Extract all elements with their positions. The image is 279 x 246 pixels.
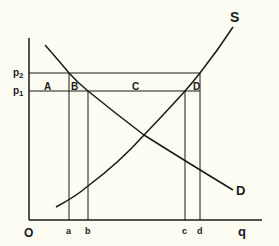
origin-label: O bbox=[24, 226, 33, 240]
price-label-p1: p1 bbox=[13, 85, 24, 98]
quantity-label-b: b bbox=[85, 226, 91, 236]
area-label-c: C bbox=[132, 81, 139, 92]
price-label-p2: p2 bbox=[13, 67, 24, 80]
supply-demand-diagram: S D p2 p1 A B C D O q a b c d bbox=[0, 0, 279, 246]
area-label-a: A bbox=[44, 81, 51, 92]
supply-curve bbox=[56, 27, 233, 207]
quantity-label-c: c bbox=[182, 226, 187, 236]
area-label-b: B bbox=[71, 81, 78, 92]
supply-label: S bbox=[230, 9, 239, 25]
quantity-label-d: d bbox=[197, 226, 203, 236]
x-axis-label: q bbox=[238, 224, 246, 239]
area-label-d: D bbox=[193, 81, 200, 92]
quantity-label-a: a bbox=[66, 226, 72, 236]
demand-label: D bbox=[236, 183, 245, 198]
